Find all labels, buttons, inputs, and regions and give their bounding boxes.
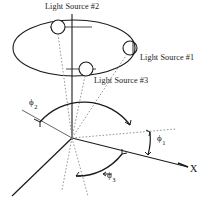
phi2-subscript: 2 [34, 103, 37, 110]
x-axis-label: X [190, 163, 197, 174]
light-source-2-label: Light Source #2 [45, 2, 99, 11]
light-source-geometry-figure: Light Source #2 Light Source #1 Light So… [0, 0, 207, 205]
lower-left-axis-line [12, 138, 72, 196]
phi3-arc [76, 154, 122, 176]
light-source-orbit-ellipse [13, 20, 135, 76]
light-source-3-marker [79, 62, 93, 76]
phi1-arrow-head-top [146, 130, 150, 136]
light-source-2-marker [51, 20, 65, 34]
light-source-2-ray [58, 34, 72, 138]
light-source-3-projection-ray [72, 138, 88, 196]
light-source-1-label: Light Source #1 [140, 53, 194, 62]
phi2-arrow-head-start [34, 119, 40, 127]
x-axis-line [72, 138, 188, 167]
phi1-subscript: 1 [162, 139, 165, 146]
phi1-angle-label: ϕ1 [157, 133, 165, 145]
phi3-subscript: 3 [112, 176, 115, 183]
light-source-3-label: Light Source #3 [94, 76, 148, 85]
phi2-arc [40, 102, 130, 125]
phi3-angle-label: ϕ3 [107, 170, 115, 182]
phi2-angle-label: ϕ2 [29, 97, 37, 109]
phi2-direction-ray [22, 110, 72, 138]
